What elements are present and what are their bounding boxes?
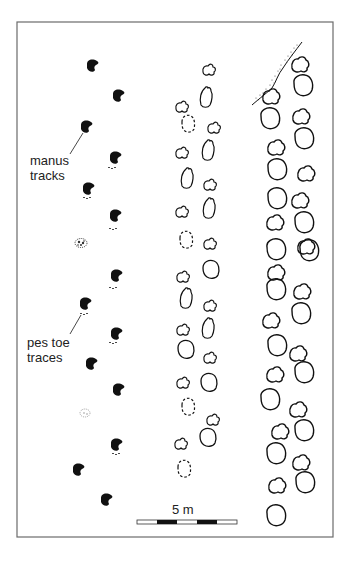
manus-leader-line [70, 133, 83, 154]
manus-track [110, 210, 121, 222]
pes-leader-line [70, 315, 81, 334]
trackway-diagram [0, 0, 353, 563]
manus-track [80, 298, 91, 310]
pes-toe-trace [108, 167, 116, 169]
manus-label-line1: manus [30, 153, 69, 168]
pes-toe-traces-label: pes toe traces [27, 335, 70, 365]
figure-frame [17, 22, 333, 537]
middle-trackway [175, 64, 221, 477]
left-trackway [73, 60, 124, 506]
manus-track [81, 121, 92, 133]
manus-track [87, 60, 98, 72]
scale-bar-label: 5 m [172, 502, 194, 517]
scale-bar [137, 520, 237, 524]
pes-toe-trace [109, 287, 117, 289]
manus-track [86, 358, 97, 370]
stippled-track [80, 409, 90, 417]
manus-track [73, 464, 84, 476]
pes-toe-trace [83, 197, 91, 199]
right-trackway [261, 57, 319, 526]
pes-toe-trace [80, 313, 88, 315]
sediment-margin [252, 42, 302, 105]
pes-toe-trace [109, 342, 117, 344]
manus-tracks-label: manus tracks [30, 153, 69, 183]
pes-label-line1: pes toe [27, 335, 70, 350]
manus-label-line2: tracks [30, 168, 69, 183]
manus-track [101, 494, 112, 506]
manus-track [83, 183, 94, 195]
manus-track [111, 439, 122, 451]
pes-toe-trace [112, 453, 120, 455]
manus-track [110, 152, 121, 164]
stippled-track [75, 239, 87, 248]
manus-track [113, 384, 124, 396]
manus-track [113, 90, 124, 102]
pes-toe-trace [109, 228, 117, 230]
pes-label-line2: traces [27, 350, 70, 365]
manus-track [111, 328, 122, 340]
manus-track [111, 270, 122, 282]
